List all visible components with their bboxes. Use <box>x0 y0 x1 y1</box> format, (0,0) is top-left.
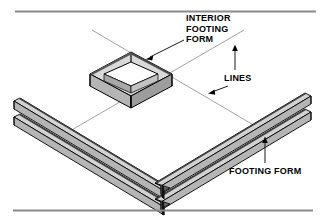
right-arm-outer-board-top <box>155 109 311 202</box>
arrowhead-lines-upper <box>232 45 238 52</box>
left-arm-inner-board-edge-strip <box>19 114 170 205</box>
label-interior-footing-form-line2: FOOTING <box>186 24 231 35</box>
left-arm-outer-board-top <box>14 98 170 191</box>
right-arm-outer-board-face <box>161 112 311 210</box>
right-arm-inner-board-face <box>161 96 311 194</box>
arrowhead-lines-lower <box>208 90 215 95</box>
left-arm-outer-board-edge-strip <box>19 98 170 189</box>
leader-interior-footing-form <box>150 40 184 57</box>
footing-form-right-arm <box>155 93 311 210</box>
label-interior-footing-form-line3: FORM <box>186 34 231 45</box>
label-footing-form: FOOTING FORM <box>229 166 301 177</box>
label-lines: LINES <box>224 73 252 84</box>
label-interior-footing-form: INTERIOR FOOTING FORM <box>186 13 231 45</box>
footing-form-left-arm <box>14 98 170 215</box>
left-arm-inner-board-face <box>14 117 164 215</box>
left-arm-outer-board-face <box>14 101 164 199</box>
arrowhead-interior-footing-form <box>146 56 154 61</box>
interior-footing-form <box>90 52 172 108</box>
label-interior-footing-form-line1: INTERIOR <box>186 13 231 24</box>
right-arm-outer-board-edge-strip <box>155 109 306 200</box>
left-arm-inner-board-top <box>14 114 170 207</box>
figure-canvas: INTERIOR FOOTING FORM LINES FOOTING FORM <box>0 0 325 222</box>
footing-form-diagram <box>0 0 325 222</box>
